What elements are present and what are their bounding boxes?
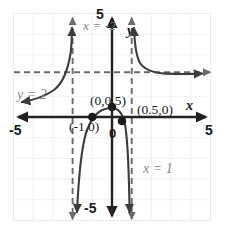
label-asymptote-y2: y = 2 [15, 87, 47, 102]
y-axis-label: y [125, 23, 134, 38]
point-x-intercept-right [118, 117, 127, 126]
graph-figure: y = 2 x = -2 x = 1 (0,0.5) (-1,0) (0.5,0… [0, 0, 226, 236]
label-asymptote-x1: x = 1 [142, 161, 173, 176]
x-axis-label: x [185, 98, 193, 113]
label-point-x-intercept-right: (0.5,0) [137, 102, 173, 117]
tick-label-x-min: -5 [9, 122, 22, 138]
tick-label-y-max: 5 [96, 6, 104, 22]
label-point-x-intercept-left: (-1,0) [69, 119, 99, 134]
origin-label: 0 [109, 126, 116, 141]
tick-label-y-min: -5 [84, 200, 97, 216]
coordinate-plane-svg: y = 2 x = -2 x = 1 (0,0.5) (-1,0) (0.5,0… [0, 0, 226, 236]
label-point-y-intercept: (0,0.5) [90, 93, 126, 108]
tick-label-x-max: 5 [205, 122, 213, 138]
